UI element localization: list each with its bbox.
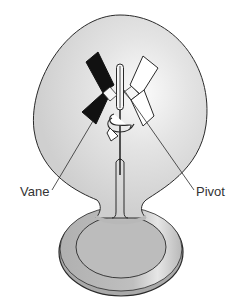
pivot-needle <box>117 64 124 110</box>
vane-label: Vane <box>20 184 49 199</box>
radiometer-illustration <box>0 0 236 305</box>
pivot-label: Pivot <box>196 184 225 199</box>
